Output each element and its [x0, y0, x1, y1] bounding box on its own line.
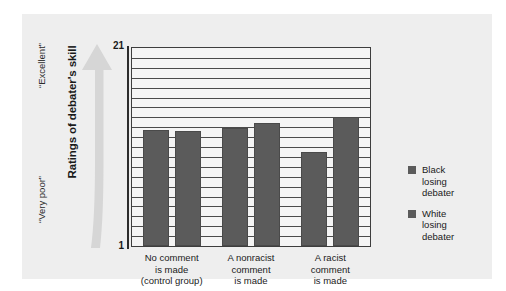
plot-area: [131, 47, 371, 247]
legend-label-line: losing: [422, 176, 454, 188]
bar: [175, 131, 201, 246]
bar: [301, 152, 327, 246]
bar: [333, 117, 359, 246]
category-label-line: comment: [282, 264, 378, 276]
gridline: [132, 88, 370, 89]
y-axis-line: [127, 46, 129, 249]
category-label-line: A racist: [282, 252, 378, 264]
legend-label-line: losing: [422, 219, 454, 231]
arrow-label-very-poor: “Very poor”: [36, 170, 47, 230]
legend-label-line: Black: [422, 164, 454, 176]
bar: [143, 130, 169, 246]
chart-figure: Ratings of debater's skill “Excellent” “…: [22, 14, 492, 279]
legend-label-line: debater: [422, 187, 454, 199]
category-label: A racistcommentis made: [282, 252, 378, 287]
y-tick-label-min: 1: [100, 240, 124, 251]
chart-legend: BlacklosingdebaterWhitelosingdebater: [408, 164, 484, 251]
legend-swatch-icon: [408, 166, 416, 174]
gridline: [132, 58, 370, 59]
y-tick-label-max: 21: [100, 40, 124, 51]
legend-item[interactable]: Blacklosingdebater: [408, 164, 484, 199]
legend-label-line: White: [422, 208, 454, 220]
arrow-label-excellent: “Excellent”: [36, 38, 47, 94]
legend-label-line: debater: [422, 231, 454, 243]
legend-swatch-icon: [408, 210, 416, 218]
gridline: [132, 107, 370, 108]
bar: [222, 128, 248, 246]
gridline: [132, 78, 370, 79]
y-axis-title: Ratings of debater's skill: [66, 22, 78, 202]
gridline: [132, 98, 370, 99]
category-label-line: is made: [282, 275, 378, 287]
gridline: [132, 68, 370, 69]
legend-item[interactable]: Whitelosingdebater: [408, 208, 484, 243]
scale-direction-arrow: [78, 42, 116, 248]
bar: [254, 123, 280, 246]
legend-label: Whitelosingdebater: [422, 208, 454, 243]
legend-label: Blacklosingdebater: [422, 164, 454, 199]
